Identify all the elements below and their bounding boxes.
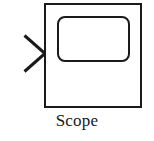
- scope-block-diagram: Scope: [0, 0, 154, 141]
- block-label: Scope: [0, 110, 154, 131]
- scope-screen-icon: [58, 17, 129, 61]
